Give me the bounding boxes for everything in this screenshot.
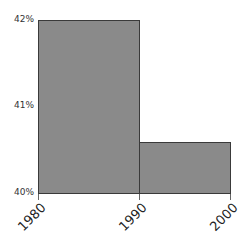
bar-1980-1990 xyxy=(38,20,140,194)
y-tick-40: 40% xyxy=(4,187,34,197)
x-tick-2000: 2000 xyxy=(207,200,241,234)
y-tick-41: 41% xyxy=(4,100,34,110)
x-tick-1990: 1990 xyxy=(116,200,150,234)
bar-1990-2000 xyxy=(139,142,231,194)
chart-plot-area: 42% 41% 40% 1980 1990 2000 xyxy=(0,0,243,243)
y-tick-42: 42% xyxy=(4,14,34,24)
x-tick-1980: 1980 xyxy=(15,200,49,234)
